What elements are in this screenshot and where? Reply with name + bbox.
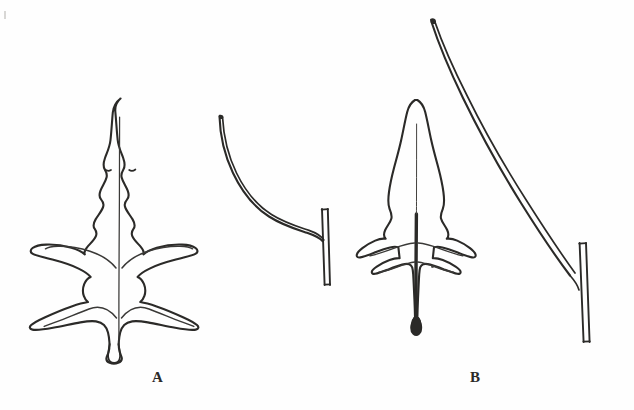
- plate-background: [0, 0, 634, 410]
- caption-label-b: B: [470, 369, 481, 386]
- figure-plate: A B: [0, 0, 634, 410]
- corner-printing-speck: [4, 11, 6, 19]
- stray-ink-dot: [431, 265, 434, 268]
- caption-label-a: A: [152, 369, 163, 386]
- leaf-illustration-svg: [0, 0, 634, 410]
